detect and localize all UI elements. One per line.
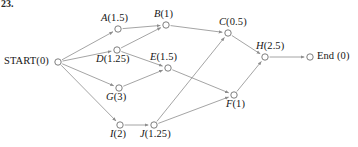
graph-node-e[interactable] [165, 65, 171, 71]
node-label-g: G(3) [106, 91, 126, 102]
node-label-start: START(0) [4, 55, 49, 66]
node-label-end: End (0) [317, 50, 349, 61]
graph-node-end[interactable] [307, 54, 313, 60]
graph-edge [172, 70, 228, 93]
graph-edge [158, 97, 228, 123]
node-label-i: I(2) [110, 128, 126, 139]
graph-edge [237, 61, 261, 91]
graph-edge [123, 70, 162, 86]
node-label-e: E(1.5) [150, 51, 177, 62]
graph-edge [171, 26, 223, 33]
node-label-a: A(1.5) [101, 12, 128, 23]
graph-node-b[interactable] [163, 22, 169, 28]
graph-node-h[interactable] [262, 54, 268, 60]
graph-canvas [0, 0, 358, 147]
graph-edge [62, 64, 113, 86]
node-label-f: F(1) [226, 98, 245, 109]
node-layer [55, 22, 313, 128]
node-label-d: D(1.25) [96, 53, 130, 64]
node-label-b: B(1) [154, 8, 173, 19]
graph-edge [121, 28, 161, 48]
activity-network-figure: 23. START(0)A(1.5)B(1)C(0.5)D(1.25)E(1.5… [0, 0, 358, 147]
graph-edge [123, 25, 161, 28]
graph-node-start[interactable] [55, 59, 61, 65]
graph-node-a[interactable] [115, 26, 121, 32]
node-label-h: H(2.5) [256, 40, 284, 51]
node-label-j: J(1.25) [140, 128, 171, 139]
node-label-c: C(0.5) [219, 16, 247, 27]
graph-node-c[interactable] [225, 30, 231, 36]
